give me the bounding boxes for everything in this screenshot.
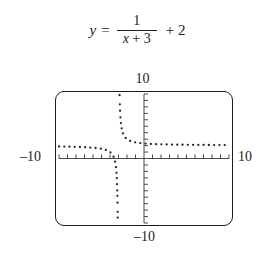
denominator-variable: x: [123, 31, 129, 46]
axes-group: [59, 94, 229, 223]
curve-dot-left-branch: [58, 145, 60, 147]
curve-dot-right-branch: [120, 122, 122, 124]
axis-label-xmin: –10: [20, 150, 41, 164]
curve-dot-right-branch: [224, 144, 226, 146]
fraction-denominator: x + 3: [120, 31, 154, 47]
curve-dot-right-branch: [160, 143, 162, 145]
curve-dot-left-branch: [114, 161, 116, 163]
curve-dot-right-branch: [197, 144, 199, 146]
equation-tail: + 2: [166, 23, 186, 38]
curve-dot-left-branch: [89, 146, 91, 148]
curve-dot-right-branch: [121, 127, 123, 129]
curve-dot-right-branch: [181, 144, 183, 146]
curve-dot-left-branch: [100, 148, 102, 150]
curve-dot-right-branch: [119, 103, 121, 105]
curve-dot-right-branch: [144, 142, 146, 144]
curve-dot-left-branch: [94, 147, 96, 149]
curve-dot-right-branch: [122, 132, 124, 134]
curve-dot-left-branch: [105, 149, 107, 151]
curve-dot-left-branch: [116, 189, 118, 191]
curve-dot-right-branch: [166, 143, 168, 145]
curve-dot-right-branch: [119, 110, 121, 112]
curve-dot-left-branch: [68, 146, 70, 148]
graphing-calculator-screen: [55, 91, 233, 226]
curve-dot-right-branch: [139, 142, 141, 144]
curve-dot-left-branch: [117, 216, 119, 218]
curve-dot-left-branch: [115, 166, 117, 168]
curve-dot-right-branch: [134, 141, 136, 143]
curve-dot-right-branch: [171, 143, 173, 145]
denominator-rest: + 3: [132, 31, 150, 46]
curve-dot-left-branch: [116, 202, 118, 204]
axis-label-ymax: 10: [0, 72, 275, 86]
curve-dot-right-branch: [150, 143, 152, 145]
curve-dot-right-branch: [208, 144, 210, 146]
curve-dot-right-branch: [155, 143, 157, 145]
curve-dot-left-branch: [63, 145, 65, 147]
curve-dot-right-branch: [202, 144, 204, 146]
equation-lhs: y: [90, 23, 97, 38]
curve-dot-right-branch: [187, 144, 189, 146]
curve-dot-right-branch: [129, 140, 131, 142]
equation-display: y = 1 x + 3 + 2: [0, 14, 275, 46]
curve-dot-left-branch: [115, 172, 117, 174]
curve-dot-left-branch: [116, 177, 118, 179]
fraction-numerator: 1: [128, 14, 145, 30]
curve-dot-right-branch: [192, 144, 194, 146]
curve-dot-right-branch: [176, 144, 178, 146]
curve-dot-left-branch: [109, 151, 111, 153]
curve-dot-left-branch: [79, 146, 81, 148]
curve-dot-right-branch: [118, 94, 120, 96]
curve-dot-right-branch: [125, 137, 127, 139]
curve-dot-right-branch: [119, 116, 121, 118]
axis-label-ymin: –10: [0, 230, 275, 244]
axis-label-xmax: 10: [238, 150, 252, 164]
curve-dot-left-branch: [117, 211, 119, 213]
equation-equals-sign: =: [101, 23, 109, 38]
curve-group: [58, 94, 226, 219]
curve-dot-left-branch: [116, 183, 118, 185]
plot-area: [55, 91, 233, 226]
curve-dot-left-branch: [116, 195, 118, 197]
curve-dot-left-branch: [112, 156, 114, 158]
curve-dot-right-branch: [213, 144, 215, 146]
curve-dot-left-branch: [84, 146, 86, 148]
equation-fraction: 1 x + 3: [117, 14, 157, 46]
curve-dot-left-branch: [74, 146, 76, 148]
curve-dot-right-branch: [218, 144, 220, 146]
equation-row: y = 1 x + 3 + 2: [90, 14, 186, 46]
